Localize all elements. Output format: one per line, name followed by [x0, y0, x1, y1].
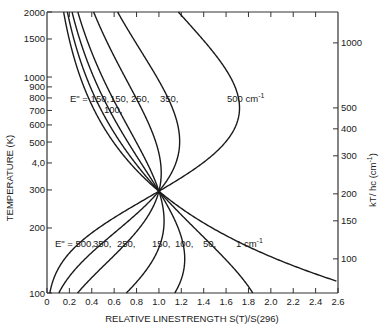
x-tick-label: 1.8	[242, 296, 255, 307]
x-tick-label: 0.8	[130, 296, 143, 307]
y-right-tick-label: 100	[341, 253, 357, 264]
upper-labels: E" = 1, 50, 150, 100, 250, 350, 500 cm-1	[70, 92, 264, 115]
plot-frame	[47, 12, 338, 293]
y-tick-label: 200	[29, 222, 45, 233]
label-upper-350: 350,	[160, 93, 179, 104]
curve-50	[67, 12, 252, 293]
svg-text:kT/ hc (cm-1): kT/ hc (cm-1)	[366, 153, 378, 207]
y-tick-label: 900	[29, 81, 45, 92]
x-axis-title: RELATIVE LINESTRENGTH S(T)/S(296)	[105, 313, 279, 324]
label-upper-250: 250,	[131, 93, 150, 104]
y-tick-label: 500	[29, 137, 45, 148]
y-tick-label: 4,0	[32, 157, 45, 168]
y-right-axis-title: kT/ hc (cm-1)	[366, 153, 378, 207]
y-tick-label: 300	[29, 184, 45, 195]
y-right-tick-label: 200	[341, 188, 357, 199]
label-lower-1: 1 cm-1	[236, 237, 263, 249]
label-upper-50: 50,	[96, 93, 109, 104]
x-tick-label: 2.0	[264, 296, 277, 307]
curve-250	[78, 12, 162, 293]
y-right-axis-ticks: 1001502003004005001000	[333, 37, 362, 264]
curves	[50, 12, 337, 293]
x-tick-label: 2.2	[287, 296, 300, 307]
y-tick-label: 1000	[24, 72, 45, 83]
x-tick-label: 0.4	[85, 296, 98, 307]
y-axis-title: TEMPERATURE (K)	[4, 135, 15, 221]
x-axis-ticks: 00.20.40.60.81.01.21.41.61.82.02.22.42.6	[44, 288, 344, 307]
x-tick-label: 1.2	[175, 296, 188, 307]
x-tick-label: 2.6	[331, 296, 344, 307]
x-tick-label: 1.4	[197, 296, 210, 307]
label-upper-150: 150,	[110, 93, 129, 104]
y-tick-label: 800	[29, 92, 45, 103]
y-axis-ticks: 1002003004,0500600700800900100015002000	[24, 7, 52, 299]
y-right-tick-label: 300	[341, 150, 357, 161]
y-tick-label: 700	[29, 105, 45, 116]
y-right-tick-label: 150	[341, 215, 357, 226]
label-upper-prefix: E" = 1,	[70, 93, 98, 104]
label-lower-50: 50,	[203, 238, 216, 249]
label-upper-500: 500 cm-1	[227, 92, 264, 104]
label-upper-100: 100,	[104, 104, 123, 115]
y-tick-label: 600	[29, 119, 45, 130]
x-tick-label: 0.2	[63, 296, 76, 307]
x-tick-label: 0.6	[108, 296, 121, 307]
label-lower-250: 250,	[117, 238, 136, 249]
top-axis-ticks	[69, 12, 315, 17]
label-lower-100: 100,	[175, 238, 194, 249]
x-tick-label: 0	[44, 296, 49, 307]
x-tick-label: 1.0	[152, 296, 165, 307]
x-tick-label: 2.4	[309, 296, 322, 307]
y-tick-label: 2000	[24, 7, 45, 18]
y-tick-label: 100	[29, 288, 45, 299]
y-right-tick-label: 1000	[341, 37, 362, 48]
linestrength-chart: 00.20.40.60.81.01.21.41.61.82.02.22.42.6…	[0, 0, 386, 328]
y-right-tick-label: 400	[341, 123, 357, 134]
label-lower-prefix: E" = 500,	[55, 238, 94, 249]
x-tick-label: 1.6	[219, 296, 232, 307]
curve-100	[72, 12, 185, 293]
y-right-tick-label: 500	[341, 102, 357, 113]
label-lower-350: 350,	[93, 238, 112, 249]
label-lower-150: 150,	[152, 238, 171, 249]
y-tick-label: 1500	[24, 33, 45, 44]
